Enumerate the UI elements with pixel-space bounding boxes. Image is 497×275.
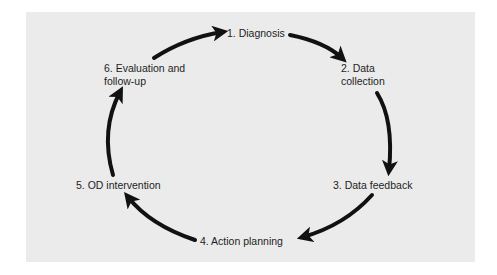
step-1-label: 1. Diagnosis — [227, 27, 285, 39]
arrow-6-to-1 — [154, 32, 222, 58]
arrow-5-to-6 — [108, 92, 120, 175]
step-6-evaluation: 6. Evaluation and follow-up — [104, 62, 185, 88]
step-6-label-line1: 6. Evaluation and — [104, 62, 185, 75]
step-5-od-intervention: 5. OD intervention — [76, 179, 161, 192]
step-5-label: 5. OD intervention — [76, 179, 161, 191]
step-6-label-line2: follow-up — [104, 75, 185, 88]
arrow-1-to-2 — [290, 35, 342, 58]
step-3-data-feedback: 3. Data feedback — [333, 179, 412, 192]
step-3-label: 3. Data feedback — [333, 179, 412, 191]
step-4-label: 4. Action planning — [200, 235, 283, 247]
step-1-diagnosis: 1. Diagnosis — [227, 27, 285, 40]
step-2-data-collection: 2. Data collection — [341, 62, 385, 88]
arrow-2-to-3 — [377, 93, 390, 170]
step-4-action-planning: 4. Action planning — [200, 235, 283, 248]
arrow-3-to-4 — [303, 195, 372, 237]
step-2-label-line2: collection — [341, 75, 385, 88]
cycle-arrows — [0, 0, 497, 275]
arrow-4-to-5 — [128, 197, 195, 240]
step-2-label-line1: 2. Data — [341, 62, 385, 75]
